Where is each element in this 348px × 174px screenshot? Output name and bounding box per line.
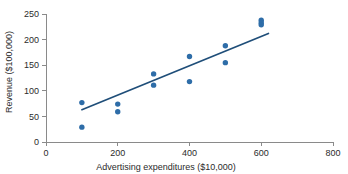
x-axis-title: Advertising expenditures ($10,000) [96, 162, 236, 172]
data-point [151, 82, 156, 87]
data-point [223, 43, 228, 48]
y-tick-label: 150 [24, 60, 39, 70]
data-point [259, 22, 264, 27]
x-axis: 0200400600800 [43, 142, 340, 158]
trend-line-group [82, 33, 269, 109]
data-point [151, 71, 156, 76]
data-point [115, 101, 120, 106]
y-axis: 050100150200250 [24, 9, 46, 147]
data-point [115, 109, 120, 114]
y-tick-label: 50 [29, 112, 39, 122]
x-tick-label: 0 [43, 148, 48, 158]
y-tick-label: 200 [24, 35, 39, 45]
scatter-chart: 050100150200250 0200400600800 Advertisin… [0, 0, 348, 174]
data-point [223, 60, 228, 65]
data-point [79, 100, 84, 105]
y-tick-label: 0 [34, 137, 39, 147]
x-tick-label: 600 [254, 148, 269, 158]
data-point [79, 124, 84, 129]
data-point [187, 79, 192, 84]
y-tick-label: 100 [24, 86, 39, 96]
x-tick-label: 800 [325, 148, 340, 158]
chart-canvas: 050100150200250 0200400600800 Advertisin… [0, 0, 348, 174]
y-tick-label: 250 [24, 9, 39, 19]
x-tick-label: 200 [110, 148, 125, 158]
regression-line [82, 33, 269, 109]
x-tick-label: 400 [182, 148, 197, 158]
data-point [187, 54, 192, 59]
y-axis-title: Revenue ($100,000) [4, 31, 14, 113]
